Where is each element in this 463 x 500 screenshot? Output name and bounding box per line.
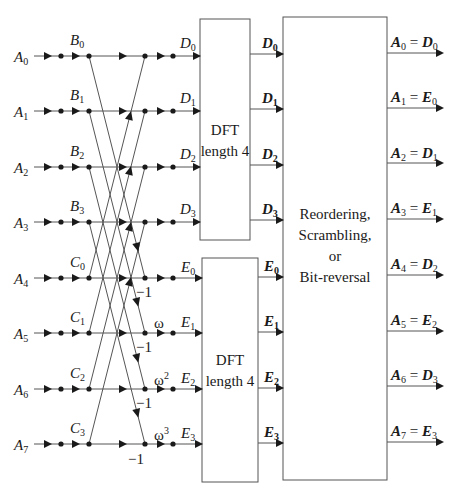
- reorder-line3: or: [283, 246, 387, 267]
- butterfly-in-label-b2: B2: [70, 144, 84, 161]
- node-dot-icon: [58, 108, 63, 113]
- arrowhead-icon: [44, 163, 52, 171]
- butterfly-out-label-e1: E1: [181, 315, 195, 332]
- arrowhead-icon: [44, 218, 52, 226]
- arrowhead-icon: [72, 52, 80, 60]
- twiddle-w2: ω2: [154, 371, 169, 388]
- node-dot-icon: [142, 330, 147, 335]
- dft-bottom-line2: length 4: [202, 371, 258, 392]
- input-label-a2: A2: [14, 161, 28, 178]
- butterfly-in-label-b3: B3: [70, 199, 84, 216]
- node-dot-icon: [58, 330, 63, 335]
- arrowhead-icon: [119, 274, 127, 282]
- arrowhead-icon: [436, 438, 444, 446]
- reorder-line1: Reordering,: [283, 204, 387, 225]
- node-dot-icon: [170, 386, 175, 391]
- node-dot-icon: [142, 386, 147, 391]
- arrowhead-icon: [44, 107, 52, 115]
- dft-out-label-e2: E2: [264, 370, 279, 387]
- arrowhead-icon: [436, 327, 444, 335]
- reorder-line2: Scrambling,: [283, 225, 387, 246]
- dft-out-label-e0: E0: [264, 259, 279, 276]
- dft-top-line2: length 4: [200, 141, 250, 162]
- input-label-a4: A4: [14, 272, 28, 289]
- dft-out-label-d2: D2: [262, 147, 278, 164]
- input-label-a1: A1: [14, 105, 28, 122]
- node-dot-icon: [142, 53, 147, 58]
- minus-one-label-2: −1: [136, 340, 152, 355]
- arrowhead-icon: [72, 274, 80, 282]
- node-dot-icon: [86, 53, 91, 58]
- arrowhead-icon: [44, 440, 52, 448]
- node-dot-icon: [58, 275, 63, 280]
- node-dot-icon: [86, 441, 91, 446]
- node-dot-icon: [142, 441, 147, 446]
- butterfly-in-label-c0: C0: [70, 255, 85, 272]
- dft-bottom-caption: DFT length 4: [202, 350, 258, 392]
- input-label-a5: A5: [14, 327, 28, 344]
- node-dot-icon: [58, 53, 63, 58]
- final-output-0: A0 = D0: [391, 35, 438, 52]
- arrowhead-icon: [72, 385, 80, 393]
- butterfly-out-label-d1: D1: [180, 91, 196, 108]
- butterfly-in-label-b0: B0: [70, 33, 84, 50]
- final-output-4: A4 = D2: [391, 257, 438, 274]
- arrowhead-icon: [72, 440, 80, 448]
- node-dot-icon: [58, 219, 63, 224]
- minus-one-label-4: −1: [128, 452, 144, 467]
- final-output-5: A5 = E2: [391, 313, 437, 330]
- butterfly-out-label-d3: D3: [180, 202, 196, 219]
- arrowhead-icon: [72, 329, 80, 337]
- arrowhead-icon: [119, 385, 127, 393]
- arrowhead-icon: [157, 52, 165, 60]
- arrowhead-icon: [125, 111, 133, 121]
- node-dot-icon: [170, 164, 175, 169]
- butterfly-in-label-c2: C2: [70, 366, 85, 383]
- node-dot-icon: [58, 164, 63, 169]
- node-dot-icon: [58, 386, 63, 391]
- node-dot-icon: [86, 108, 91, 113]
- dft-out-label-e3: E3: [264, 425, 279, 442]
- arrowhead-icon: [119, 163, 127, 171]
- arrowhead-icon: [119, 218, 127, 226]
- node-dot-icon: [170, 108, 175, 113]
- node-dot-icon: [86, 330, 91, 335]
- arrowhead-icon: [157, 218, 165, 226]
- dft-bottom-line1: DFT: [202, 350, 258, 371]
- final-output-6: A6 = D3: [391, 368, 438, 385]
- twiddle-w1: ω: [154, 314, 164, 331]
- node-dot-icon: [170, 53, 175, 58]
- arrowhead-icon: [119, 329, 127, 337]
- node-dot-icon: [58, 441, 63, 446]
- reorder-caption: Reordering, Scrambling, or Bit-reversal: [283, 204, 387, 288]
- arrowhead-icon: [132, 242, 140, 252]
- node-dot-icon: [86, 164, 91, 169]
- input-label-a6: A6: [14, 383, 28, 400]
- dft-top-line1: DFT: [200, 120, 250, 141]
- input-label-a0: A0: [14, 50, 28, 67]
- minus-one-label-3: −1: [136, 396, 152, 411]
- input-label-a7: A7: [14, 438, 28, 455]
- final-output-7: A7 = E3: [391, 424, 437, 441]
- final-output-1: A1 = E0: [391, 90, 437, 107]
- twiddle-w3: ω3: [154, 426, 169, 443]
- node-dot-icon: [170, 441, 175, 446]
- arrowhead-icon: [436, 215, 444, 223]
- input-label-a3: A3: [14, 216, 28, 233]
- node-dot-icon: [142, 164, 147, 169]
- arrowhead-icon: [436, 104, 444, 112]
- arrowhead-icon: [119, 440, 127, 448]
- node-dot-icon: [86, 275, 91, 280]
- node-dot-icon: [170, 330, 175, 335]
- node-dot-icon: [142, 275, 147, 280]
- arrowhead-icon: [44, 329, 52, 337]
- arrowhead-icon: [72, 163, 80, 171]
- arrowhead-icon: [72, 107, 80, 115]
- arrowhead-icon: [157, 274, 165, 282]
- dft-out-label-d1: D1: [262, 91, 278, 108]
- arrowhead-icon: [44, 274, 52, 282]
- butterfly-out-label-e3: E3: [181, 426, 195, 443]
- arrowhead-icon: [119, 52, 127, 60]
- butterfly-out-label-d0: D0: [180, 36, 196, 53]
- butterfly-in-label-c1: C1: [70, 310, 85, 327]
